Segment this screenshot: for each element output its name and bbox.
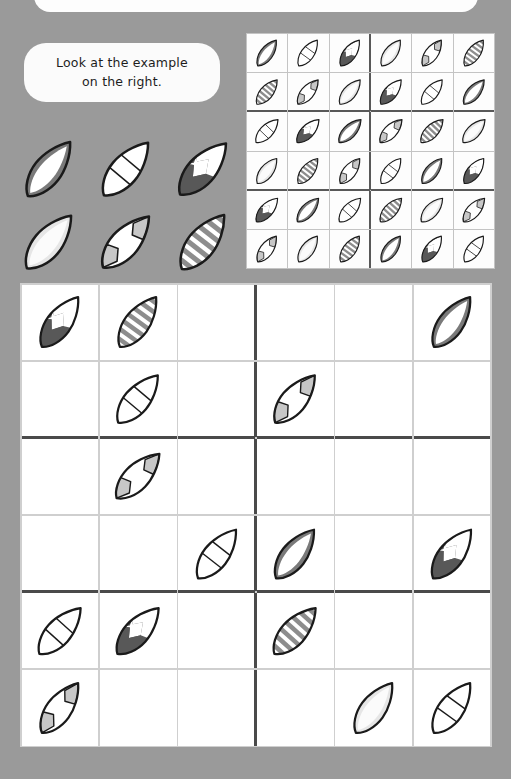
- grid-cell-striped-board: [371, 191, 411, 229]
- grid-cell-light-solid-board: [454, 112, 494, 150]
- grid-cell-striped-board: [330, 230, 370, 268]
- grid-cell-empty[interactable]: [22, 439, 99, 515]
- grid-cell-gray-patch-board[interactable]: [257, 362, 334, 438]
- legend-dark-solid-board: [10, 133, 87, 206]
- grid-cell-empty[interactable]: [100, 670, 177, 746]
- grid-cell-chevron-board[interactable]: [414, 516, 491, 592]
- surfboard-chevron: [164, 130, 242, 208]
- grid-cell-dark-solid-board: [371, 230, 411, 268]
- grid-cell-empty[interactable]: [257, 439, 334, 515]
- surfboard-light: [10, 203, 88, 281]
- grid-cell-gray-patch-board: [412, 34, 452, 72]
- grid-cell-light-solid-board: [371, 34, 411, 72]
- grid-cell-striped-board: [454, 34, 494, 72]
- board-type-key: [10, 133, 242, 278]
- grid-cell-empty[interactable]: [22, 362, 99, 438]
- puzzle-grid[interactable]: [20, 283, 492, 747]
- surfboard-dark: [373, 231, 409, 267]
- grid-cell-light-solid-board: [330, 73, 370, 111]
- surfboard-bands: [249, 113, 285, 149]
- surfboard-chevron: [25, 287, 95, 357]
- grid-cell-dark-solid-board: [247, 34, 287, 72]
- grid-cell-empty[interactable]: [257, 670, 334, 746]
- grid-cell-empty[interactable]: [414, 439, 491, 515]
- grid-cell-banded-board: [288, 34, 328, 72]
- surfboard-stripes: [456, 35, 492, 71]
- grid-cell-striped-board[interactable]: [100, 285, 177, 361]
- surfboard-light: [332, 74, 368, 110]
- grid-cell-empty[interactable]: [335, 516, 412, 592]
- example-solved-grid: [246, 33, 495, 269]
- grid-cell-dark-solid-board: [454, 73, 494, 111]
- surfboard-stripes: [260, 596, 330, 666]
- grid-cell-dark-solid-board: [288, 191, 328, 229]
- grid-cell-empty[interactable]: [178, 362, 255, 438]
- grid-cell-empty[interactable]: [335, 362, 412, 438]
- grid-cell-empty[interactable]: [178, 593, 255, 669]
- surfboard-dark: [290, 192, 326, 228]
- surfboard-stripes: [373, 192, 409, 228]
- grid-cell-empty[interactable]: [100, 516, 177, 592]
- grid-cell-empty[interactable]: [178, 439, 255, 515]
- grid-cell-dark-solid-board[interactable]: [414, 285, 491, 361]
- grid-cell-empty[interactable]: [414, 362, 491, 438]
- surfboard-light: [290, 231, 326, 267]
- grid-cell-dark-solid-board: [330, 112, 370, 150]
- surfboard-stripes: [103, 287, 173, 357]
- grid-cell-banded-board: [412, 73, 452, 111]
- surfboard-dark: [414, 153, 450, 189]
- surfboard-dark: [456, 74, 492, 110]
- grid-cell-banded-board: [454, 230, 494, 268]
- grid-cell-striped-board: [247, 73, 287, 111]
- surfboard-graypatch: [249, 231, 285, 267]
- grid-cell-banded-board[interactable]: [178, 516, 255, 592]
- grid-cell-empty[interactable]: [22, 516, 99, 592]
- grid-cell-banded-board: [247, 112, 287, 150]
- grid-cell-chevron-board: [330, 34, 370, 72]
- legend-gray-patch-board: [87, 206, 164, 279]
- surfboard-bands: [373, 153, 409, 189]
- grid-cell-banded-board[interactable]: [22, 593, 99, 669]
- grid-cell-empty[interactable]: [178, 670, 255, 746]
- grid-cell-dark-solid-board[interactable]: [257, 516, 334, 592]
- surfboard-bands: [182, 519, 252, 589]
- grid-cell-gray-patch-board[interactable]: [100, 439, 177, 515]
- grid-cell-empty[interactable]: [178, 285, 255, 361]
- grid-cell-chevron-board[interactable]: [100, 593, 177, 669]
- surfboard-graypatch: [103, 441, 173, 511]
- grid-cell-striped-board: [412, 112, 452, 150]
- surfboard-bands: [414, 74, 450, 110]
- grid-cell-empty[interactable]: [335, 439, 412, 515]
- surfboard-dark: [417, 287, 487, 357]
- grid-cell-light-solid-board: [412, 191, 452, 229]
- grid-cell-empty[interactable]: [335, 593, 412, 669]
- surfboard-dark: [332, 113, 368, 149]
- surfboard-stripes: [164, 203, 242, 281]
- instruction-line-1: Look at the example: [56, 55, 188, 70]
- surfboard-chevron: [373, 74, 409, 110]
- instruction-line-2: on the right.: [82, 74, 162, 89]
- grid-cell-striped-board[interactable]: [257, 593, 334, 669]
- grid-cell-banded-board[interactable]: [414, 670, 491, 746]
- surfboard-light: [339, 673, 409, 743]
- grid-cell-gray-patch-board: [288, 73, 328, 111]
- grid-cell-empty[interactable]: [335, 285, 412, 361]
- surfboard-graypatch: [373, 113, 409, 149]
- surfboard-light: [373, 35, 409, 71]
- grid-cell-chevron-board[interactable]: [22, 285, 99, 361]
- grid-cell-banded-board[interactable]: [100, 362, 177, 438]
- surfboard-graypatch: [87, 203, 165, 281]
- grid-cell-gray-patch-board[interactable]: [22, 670, 99, 746]
- surfboard-bands: [87, 130, 165, 208]
- grid-cell-empty[interactable]: [257, 285, 334, 361]
- grid-cell-chevron-board: [288, 112, 328, 150]
- grid-cell-chevron-board: [412, 230, 452, 268]
- legend-banded-board: [87, 133, 164, 206]
- surfboard-chevron: [249, 192, 285, 228]
- grid-cell-light-solid-board[interactable]: [335, 670, 412, 746]
- surfboard-chevron: [290, 113, 326, 149]
- grid-cell-empty[interactable]: [414, 593, 491, 669]
- grid-cell-chevron-board: [454, 152, 494, 190]
- surfboard-chevron: [103, 596, 173, 666]
- grid-cell-gray-patch-board: [371, 112, 411, 150]
